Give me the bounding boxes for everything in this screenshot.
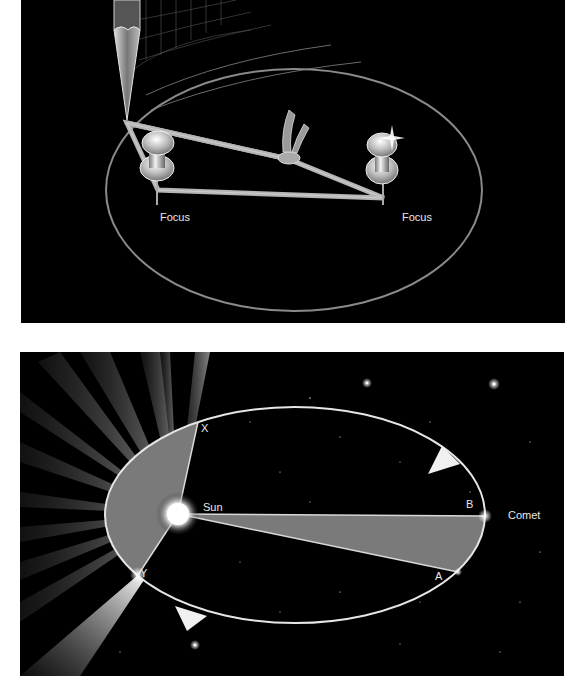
sun-label: Sun bbox=[203, 501, 223, 513]
pencil-icon bbox=[133, 0, 361, 110]
ellipse-drawing-panel: Focus Focus bbox=[21, 0, 565, 323]
point-x-label: X bbox=[201, 422, 208, 434]
focus-label-right: Focus bbox=[402, 211, 432, 223]
point-a-label: A bbox=[435, 570, 442, 582]
comet-tail bbox=[20, 575, 144, 676]
comet-orbit-panel: Sun Comet X Y A B bbox=[20, 352, 564, 676]
comet-label: Comet bbox=[508, 509, 540, 521]
orbit-arrow-top-icon bbox=[428, 446, 460, 474]
comet-orbit-illustration bbox=[20, 352, 564, 676]
ellipse-drawing-illustration bbox=[21, 0, 565, 323]
comet-icon bbox=[478, 509, 492, 523]
point-b-label: B bbox=[466, 498, 473, 510]
focus-label-left: Focus bbox=[160, 211, 190, 223]
pushpin-left-icon bbox=[140, 131, 174, 205]
point-y-label: Y bbox=[140, 567, 147, 579]
